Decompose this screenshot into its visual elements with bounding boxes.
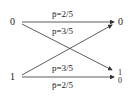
input-1-label: 1 (10, 71, 15, 82)
edge-label-0-0: p̄=2/5 (52, 9, 74, 19)
output-0-label: 0 (118, 16, 123, 27)
edge-label-1-0: p=3/5 (52, 63, 74, 73)
edge-label-0-1: p=3/5 (52, 26, 74, 36)
edge-label-1-1: p̄=2/5 (52, 80, 74, 90)
output-1-bottom-label: 0 (118, 76, 122, 85)
channel-diagram: 0 1 0 1 0 p̄=2/5 p=3/5 p=3/5 p̄=2/5 (0, 0, 139, 97)
input-0-label: 0 (10, 16, 15, 27)
